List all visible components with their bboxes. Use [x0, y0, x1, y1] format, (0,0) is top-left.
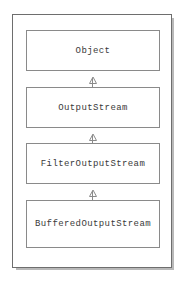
- generalization-line: [92, 78, 93, 87]
- generalization-arrowhead: [89, 184, 97, 191]
- clipped-text-artifact: [34, 0, 124, 4]
- generalization-line: [92, 135, 93, 143]
- generalization-arrowhead: [89, 128, 97, 135]
- class-name-label: Object: [76, 46, 111, 56]
- class-box-filteroutputstream[interactable]: FilterOutputStream: [26, 143, 160, 184]
- class-diagram-frame: Object OutputStream FilterOutputStream: [12, 14, 172, 268]
- class-box-outputstream[interactable]: OutputStream: [26, 87, 160, 128]
- generalization-line: [92, 191, 93, 200]
- class-box-bufferedoutputstream[interactable]: BufferedOutputStream: [26, 200, 160, 248]
- generalization-outputstream-to-object: [86, 71, 100, 87]
- class-box-object[interactable]: Object: [26, 30, 160, 71]
- generalization-filteroutputstream-to-outputstream: [86, 128, 100, 143]
- generalization-bufferedoutputstream-to-filteroutputstream: [86, 184, 100, 200]
- class-name-label: BufferedOutputStream: [35, 219, 151, 229]
- class-name-label: FilterOutputStream: [41, 159, 145, 169]
- generalization-arrowhead: [89, 71, 97, 78]
- class-diagram-canvas: Object OutputStream FilterOutputStream: [13, 15, 171, 267]
- class-name-label: OutputStream: [58, 103, 128, 113]
